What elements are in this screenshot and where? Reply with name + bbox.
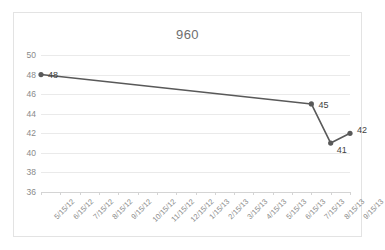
y-axis-tick-label: 46: [27, 89, 36, 99]
data-point-marker: [347, 131, 352, 136]
data-point-value-label: 48: [48, 70, 58, 80]
x-axis-tick-mark: [60, 192, 61, 195]
data-point-marker: [309, 101, 314, 106]
x-axis-tick-mark: [350, 192, 351, 195]
x-axis-tick-mark: [234, 192, 235, 195]
series-line: [41, 75, 350, 144]
y-axis-tick-label: 50: [27, 50, 36, 60]
x-axis-tick-mark: [138, 192, 139, 195]
data-point-marker: [328, 140, 333, 145]
y-axis-tick-label: 38: [27, 167, 36, 177]
x-axis-tick-mark: [157, 192, 158, 195]
x-axis-tick-label: 3/15/13: [245, 197, 269, 221]
x-axis-tick-label: 8/15/13: [342, 197, 366, 221]
y-axis-tick-label: 44: [27, 109, 36, 119]
y-axis-tick-label: 36: [27, 187, 36, 197]
x-axis-tick-mark: [99, 192, 100, 195]
x-axis-tick-mark: [253, 192, 254, 195]
x-axis-tick-mark: [41, 192, 42, 195]
x-axis-tick-label: 2/15/13: [226, 197, 250, 221]
x-axis-tick-mark: [215, 192, 216, 195]
x-axis-tick-mark: [176, 192, 177, 195]
plot-area: 5048464442403836 5/15/126/15/127/15/128/…: [41, 55, 350, 192]
chart-container: 960 5048464442403836 5/15/126/15/127/15/…: [13, 12, 362, 237]
data-point-value-label: 45: [318, 100, 328, 110]
x-axis-tick-mark: [80, 192, 81, 195]
x-axis-tick-mark: [118, 192, 119, 195]
chart-title: 960: [14, 27, 361, 42]
data-point-marker: [38, 72, 43, 77]
x-axis-tick-label: 4/15/13: [265, 197, 289, 221]
y-axis-tick-label: 42: [27, 128, 36, 138]
x-axis-tick-mark: [292, 192, 293, 195]
x-axis-tick-label: 7/15/13: [323, 197, 347, 221]
x-axis-tick-label: 6/15/13: [303, 197, 327, 221]
x-axis-tick-mark: [311, 192, 312, 195]
line-series-960: [41, 55, 350, 192]
y-axis-tick-label: 48: [27, 70, 36, 80]
x-axis-tick-label: 7/15/12: [91, 197, 115, 221]
x-axis-tick-mark: [196, 192, 197, 195]
x-axis-tick-label: 8/15/12: [110, 197, 134, 221]
x-axis-tick-mark: [273, 192, 274, 195]
x-axis-tick-label: 6/15/12: [72, 197, 96, 221]
data-point-value-label: 41: [337, 145, 347, 155]
x-axis-tick-label: 5/15/12: [52, 197, 76, 221]
x-axis-tick-label: 5/15/13: [284, 197, 308, 221]
x-axis-tick-label: 9/15/13: [361, 197, 385, 221]
data-point-value-label: 42: [357, 125, 367, 135]
x-axis-tick-mark: [331, 192, 332, 195]
y-axis-tick-label: 40: [27, 148, 36, 158]
